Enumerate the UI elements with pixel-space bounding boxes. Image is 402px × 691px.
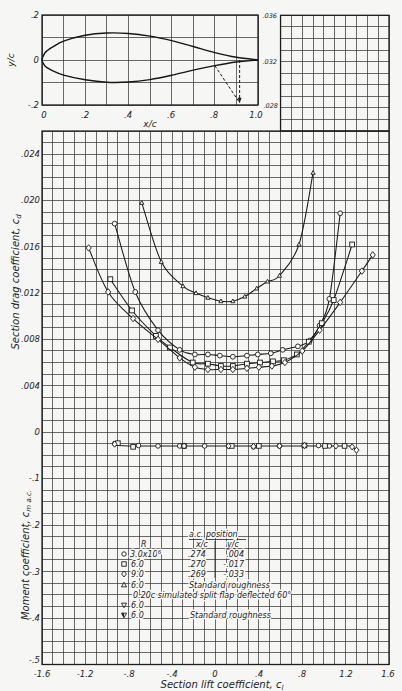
drag-ytick: .008 xyxy=(21,334,41,344)
circle-marker xyxy=(268,351,273,356)
triangle-marker xyxy=(311,170,315,174)
circle-marker xyxy=(338,211,343,216)
square-marker xyxy=(257,444,262,449)
square-marker xyxy=(131,445,136,450)
square-marker xyxy=(122,562,126,566)
triangle-marker xyxy=(265,279,269,283)
circle-marker xyxy=(192,352,197,357)
lift-xtick: .8 xyxy=(298,669,307,679)
triangle-marker xyxy=(243,294,247,298)
main-panel: .024 .020 .016 .012 .008 .004 0 -.1 -.2 … xyxy=(10,131,395,691)
airfoil-data-figure: .2 0 -.2 0 .2 .4 .6 .8 1.0 x/c y/c .036 … xyxy=(0,0,402,691)
lift-axis-title: Section lift coefficient, cl xyxy=(161,679,284,691)
drag-curve xyxy=(115,213,341,357)
triangle-down-marker xyxy=(121,603,126,608)
lift-axis-title-subscript: l xyxy=(281,684,283,691)
lift-xtick: -.8 xyxy=(123,669,135,679)
drag-curve xyxy=(142,173,313,302)
legend-row-xc: .274 xyxy=(188,550,206,559)
extension-ytick: .036 xyxy=(263,12,277,20)
diamond-marker xyxy=(122,571,127,577)
lift-xtick: -.4 xyxy=(166,669,177,679)
legend-header-ac-position: a.c. position xyxy=(189,530,238,539)
airfoil-xtick: .2 xyxy=(81,110,89,120)
airfoil-xtick: .4 xyxy=(124,110,132,120)
triangle-marker xyxy=(206,295,210,299)
drag-series xyxy=(140,170,315,302)
lift-xtick: 1.2 xyxy=(339,669,353,679)
triangle-marker xyxy=(140,201,144,205)
airfoil-panel: .2 0 -.2 0 .2 .4 .6 .8 1.0 x/c y/c xyxy=(6,10,263,129)
circle-marker xyxy=(112,221,117,226)
legend-symbol-circle xyxy=(122,552,126,556)
legend-r-value: 3.0x10 xyxy=(130,550,158,559)
drag-series xyxy=(108,242,355,368)
square-marker xyxy=(350,242,355,247)
legend-row-note: Standard roughness xyxy=(190,611,271,620)
legend-row-r: 6.0 xyxy=(131,611,144,620)
legend-row-note: Standard roughness xyxy=(189,581,270,590)
airfoil-ytick: -.2 xyxy=(28,100,39,110)
legend-flap-note: 0.20c simulated split flap deflected 60° xyxy=(133,591,291,600)
legend-header-r: R xyxy=(141,540,147,549)
triangle-marker xyxy=(194,291,198,295)
circle-marker xyxy=(296,344,301,349)
lift-axis-title-text: Section lift coefficient, c xyxy=(161,679,282,690)
drag-ytick: .024 xyxy=(21,149,40,159)
circle-marker xyxy=(156,444,161,449)
triangle-marker xyxy=(297,242,301,246)
triangle-marker xyxy=(159,260,163,264)
diamond-marker xyxy=(205,366,210,372)
drag-ytick: .004 xyxy=(21,381,40,391)
circle-marker xyxy=(217,353,222,358)
moment-axis-title-text: Moment coefficient, c xyxy=(20,511,31,620)
legend-row-r: 6.0 xyxy=(131,581,144,590)
split-flap-line xyxy=(215,66,240,103)
legend-header-yc: y/c xyxy=(226,540,239,549)
airfoil-xtick: .6 xyxy=(167,110,176,120)
legend-symbol-triangle-down-flagged xyxy=(121,613,126,618)
circle-marker xyxy=(202,444,207,449)
drag-curve xyxy=(110,244,352,366)
legend-row-yc: .004 xyxy=(226,550,244,559)
square-marker xyxy=(206,361,211,366)
airfoil-xtick: 0 xyxy=(41,110,46,120)
moment-ytick: -.1 xyxy=(29,473,40,483)
airfoil-grid xyxy=(42,15,258,105)
lift-xtick: .4 xyxy=(255,669,263,679)
drag-ytick: 0 xyxy=(35,427,40,437)
airfoil-xtick: 1.0 xyxy=(249,110,263,120)
drag-ytick: .016 xyxy=(21,242,41,252)
circle-marker xyxy=(133,290,138,295)
legend-row-r: 3.0x106 xyxy=(130,549,162,559)
square-marker xyxy=(342,444,347,449)
legend-symbol-triangle-down xyxy=(121,603,126,608)
legend-row-xc: .270 xyxy=(188,560,206,569)
drag-ytick: .020 xyxy=(21,195,40,205)
diamond-marker xyxy=(350,444,355,450)
square-marker xyxy=(108,277,113,282)
airfoil-ytick: 0 xyxy=(34,55,39,65)
drag-extension-grid xyxy=(281,15,389,131)
legend-row-yc: -.033 xyxy=(223,570,244,579)
circle-marker xyxy=(316,443,321,448)
drag-ytick: .012 xyxy=(21,288,40,298)
diamond-marker xyxy=(86,245,91,251)
moment-curves xyxy=(112,441,359,453)
circle-marker xyxy=(255,352,260,357)
drag-series xyxy=(112,211,342,359)
lift-xtick: -1.6 xyxy=(34,669,51,679)
circle-marker xyxy=(245,353,250,358)
moment-series xyxy=(112,441,331,449)
lift-xtick: -1.2 xyxy=(77,669,94,679)
triangle-marker xyxy=(219,299,223,303)
legend-symbol-diamond xyxy=(122,571,127,577)
drag-axis-title-text: Section drag coefficient, c xyxy=(10,218,21,349)
drag-extension-panel: .036 .032 .028 xyxy=(263,12,389,131)
circle-marker xyxy=(122,552,126,556)
moment-ytick: -.5 xyxy=(29,655,40,665)
moment-axis-title: Moment coefficient, cm a.c. xyxy=(20,490,33,620)
airfoil-xlabel: x/c xyxy=(142,119,156,129)
extension-ytick: .028 xyxy=(264,102,278,110)
moment-axis-title-subscript: m a.c. xyxy=(25,490,33,512)
